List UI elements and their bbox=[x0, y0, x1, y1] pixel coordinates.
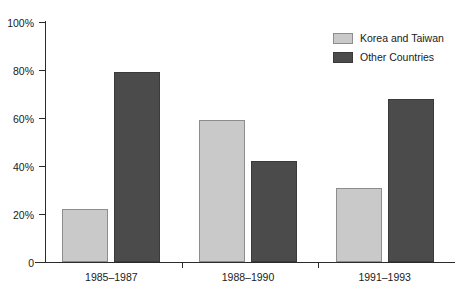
y-tick-label: 20% bbox=[13, 209, 34, 220]
bar-2-series-2 bbox=[251, 161, 297, 262]
y-tick-label: 100% bbox=[7, 17, 34, 28]
x-tick-boundary-1 bbox=[182, 262, 183, 268]
legend-item-1: Korea and Taiwan bbox=[333, 30, 444, 46]
y-tick-label: 80% bbox=[13, 65, 34, 76]
legend-swatch-icon bbox=[333, 33, 353, 44]
legend-label: Other Countries bbox=[360, 52, 434, 63]
x-axis-label-2: 1988–1990 bbox=[222, 272, 275, 283]
x-axis-label-3: 1991–1993 bbox=[358, 272, 411, 283]
bar-chart: 100%80%60%40%20%0 1985–19871988–19901991… bbox=[0, 0, 455, 294]
bar-3-series-1 bbox=[336, 188, 382, 262]
y-tick-label: 0 bbox=[28, 257, 34, 268]
y-tick-label: 60% bbox=[13, 113, 34, 124]
chart-legend: Korea and TaiwanOther Countries bbox=[333, 30, 444, 68]
y-tick-label: 40% bbox=[13, 161, 34, 172]
bar-2-series-1 bbox=[199, 120, 245, 262]
x-axis-line bbox=[35, 262, 455, 263]
bar-1-series-2 bbox=[114, 72, 160, 262]
legend-label: Korea and Taiwan bbox=[360, 33, 444, 44]
legend-swatch-icon bbox=[333, 52, 353, 63]
y-tick-0: 0 bbox=[39, 262, 45, 263]
legend-item-2: Other Countries bbox=[333, 49, 444, 65]
x-tick-boundary-2 bbox=[318, 262, 319, 268]
x-axis-label-1: 1985–1987 bbox=[85, 272, 138, 283]
bar-3-series-2 bbox=[388, 99, 434, 262]
clipped-page-header bbox=[0, 0, 455, 8]
bar-1-series-1 bbox=[62, 209, 108, 262]
